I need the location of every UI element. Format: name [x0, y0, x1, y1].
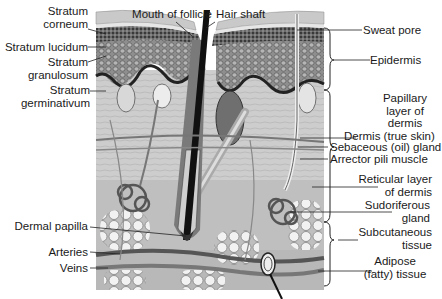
- label-line: Stratum: [20, 56, 88, 69]
- label-sebaceous-gland: Sebaceous (oil) gland: [330, 141, 441, 154]
- label-sweat-pore: Sweat pore: [363, 24, 421, 37]
- label-subcutaneous: Subcutaneous tissue: [350, 226, 432, 251]
- label-stratum-granulosum: Stratum granulosum: [20, 56, 88, 81]
- label-line: Subcutaneous: [350, 226, 432, 239]
- label-reticular-layer: Reticular layer of dermis: [350, 173, 432, 198]
- label-arteries: Arteries: [0, 246, 88, 259]
- label-line: layer of: [372, 105, 438, 118]
- label-veins: Veins: [0, 262, 88, 275]
- label-line: dermis: [372, 117, 438, 130]
- label-line: gland: [350, 212, 430, 225]
- label-adipose: Adipose (fatty) tissue: [360, 255, 430, 280]
- label-line: of dermis: [350, 186, 432, 199]
- label-line: Stratum: [0, 84, 90, 97]
- label-line: germinativum: [0, 97, 90, 110]
- label-line: Adipose: [360, 255, 430, 268]
- label-stratum-lucidum: Stratum lucidum: [0, 41, 88, 54]
- label-line: Stratum: [42, 5, 88, 18]
- label-stratum-corneum: Stratum corneum: [42, 5, 88, 30]
- label-line: corneum: [42, 18, 88, 31]
- label-line: tissue: [350, 239, 432, 252]
- epidermis-brace: [324, 28, 334, 90]
- label-line: (fatty) tissue: [360, 268, 430, 281]
- label-line: Reticular layer: [350, 173, 432, 186]
- label-line: Sudoriferous: [350, 199, 430, 212]
- label-dermal-papilla: Dermal papilla: [0, 220, 88, 233]
- label-epidermis: Epidermis: [370, 54, 421, 67]
- label-hair-shaft: Hair shaft: [216, 8, 265, 21]
- label-stratum-germinativum: Stratum germinativum: [0, 84, 90, 109]
- label-line: Papillary: [372, 92, 438, 105]
- label-papillary-layer: Papillary layer of dermis: [372, 92, 438, 130]
- label-arrector-pili: Arrector pili muscle: [330, 153, 428, 166]
- label-line: granulosum: [20, 69, 88, 82]
- subcutaneous-brace: [324, 222, 334, 286]
- label-mouth-of-follicle: Mouth of follicle: [122, 8, 222, 21]
- label-sudoriferous-gland: Sudoriferous gland: [350, 199, 430, 224]
